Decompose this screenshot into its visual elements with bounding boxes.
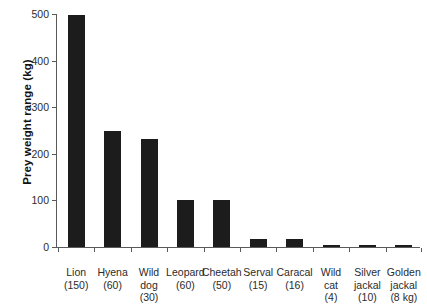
bar [177,200,194,247]
y-tick-label: 200 [31,148,49,160]
x-axis-line [56,247,420,248]
x-label-line: (8 kg) [377,291,427,304]
y-tick-300: 300 [52,107,56,108]
bar [250,239,267,247]
y-tick-label: 300 [31,101,49,113]
bar [359,245,376,247]
x-tick [421,248,422,252]
y-tick-200: 200 [52,154,56,155]
y-axis-line [56,14,57,248]
bar [141,139,158,247]
y-tick-0: 0 [52,247,56,248]
x-tick [204,248,205,252]
x-label-line: Golden [377,266,427,279]
plot-area: 0100200300400500 Lion(150)Hyena(60)Wildd… [56,14,420,248]
x-axis-category-label: Goldenjackal(8 kg) [377,266,427,304]
x-tick [58,248,59,252]
bar [213,200,230,247]
x-tick [167,248,168,252]
y-tick-100: 100 [52,200,56,201]
y-tick-label: 100 [31,194,49,206]
x-tick [276,248,277,252]
x-tick [386,248,387,252]
bar [286,239,303,247]
y-tick-label: 500 [31,8,49,20]
y-tick-label: 0 [43,241,49,253]
bar [68,15,85,247]
y-tick-400: 400 [52,61,56,62]
x-tick [313,248,314,252]
x-tick [240,248,241,252]
bar [395,245,412,247]
bar [104,131,121,248]
x-tick [349,248,350,252]
bar [323,245,340,247]
y-tick-label: 400 [31,55,49,67]
y-tick-500: 500 [52,14,56,15]
x-label-line: jackal [377,279,427,292]
x-tick [131,248,132,252]
x-label-line: (30) [122,291,176,304]
x-tick [94,248,95,252]
